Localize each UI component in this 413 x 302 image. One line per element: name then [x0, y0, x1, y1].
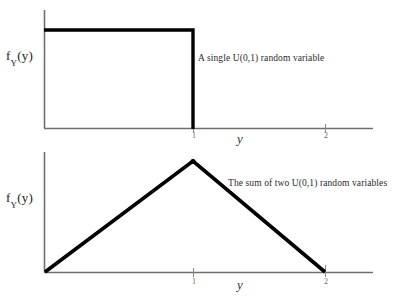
panel-single-uniform	[44, 10, 373, 133]
x-axis-label-top: y	[237, 131, 243, 147]
y-axis-label-top-arg: (y)	[17, 48, 33, 63]
y-axis-label-bottom-subscript: Y	[11, 200, 18, 210]
x-axis-label-bottom: y	[237, 277, 243, 293]
x-tick-label-bottom-1: 1	[188, 277, 200, 286]
triangle-peak-marker	[190, 159, 195, 164]
caption-single-uniform: A single U(0,1) random variable	[198, 53, 324, 63]
x-tick-label-bottom-2: 2	[320, 277, 332, 286]
y-axis-label-bottom: fY(y)	[6, 190, 33, 208]
panel-sum-of-two-uniforms	[44, 152, 373, 277]
y-axis-label-top-subscript: Y	[11, 58, 18, 68]
probability-density-figure	[0, 0, 413, 302]
y-axis-label-bottom-main: f	[6, 190, 11, 205]
y-axis-label-top-main: f	[6, 48, 11, 63]
y-axis-label-top: fY(y)	[6, 48, 33, 66]
caption-sum-of-two-uniforms: The sum of two U(0,1) random variables	[228, 178, 387, 188]
x-tick-label-top-1: 1	[188, 131, 200, 140]
density-curve-uniform	[44, 30, 193, 129]
x-tick-label-top-2: 2	[320, 131, 332, 140]
y-axis-label-bottom-arg: (y)	[17, 190, 33, 205]
